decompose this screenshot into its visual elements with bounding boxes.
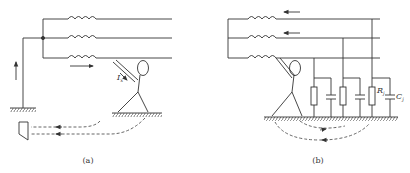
- ground-hatch-a: [10, 108, 36, 112]
- capacitor-label: Cj: [396, 92, 404, 103]
- ground-hatch-person: [112, 113, 162, 117]
- caption-a: (a): [82, 156, 93, 165]
- phase-line-1: [43, 17, 172, 20]
- neutral-node: [41, 36, 44, 39]
- return-current-loops: [275, 121, 370, 140]
- caption-b: (b): [312, 156, 323, 165]
- rc-branch-3: [369, 19, 395, 117]
- phase-line-b1: [228, 17, 380, 20]
- person-icon: [113, 60, 149, 112]
- phase-line-2: [23, 36, 172, 39]
- figure: Ix (a): [0, 0, 410, 173]
- phase-line-b3: [228, 56, 380, 59]
- panel-a: [10, 17, 172, 141]
- panel-b: [228, 12, 398, 140]
- resistor-label: Rj: [376, 86, 385, 97]
- return-current-paths: [31, 118, 145, 134]
- rc-branch-2: [340, 38, 365, 117]
- ground-hatch-b: [264, 117, 398, 121]
- phase-line-3: [43, 56, 172, 59]
- person-icon-b: [272, 58, 302, 116]
- ground-electrode: [19, 122, 28, 140]
- circuit-diagram: Ix (a): [0, 0, 410, 173]
- rc-branch-1: [311, 58, 336, 117]
- phase-line-b2: [228, 36, 380, 39]
